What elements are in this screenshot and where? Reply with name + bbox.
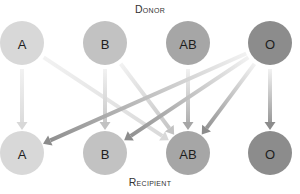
arrow-a-to-a xyxy=(17,69,28,130)
blood-type-compatibility-diagram: Donor Recipient ABABO ABABO xyxy=(0,0,300,194)
donor-node-o: O xyxy=(248,21,292,65)
donor-node-a: A xyxy=(0,21,44,65)
diagram-canvas: ABABO ABABO xyxy=(0,0,300,194)
recipient-node-b: B xyxy=(83,131,127,175)
blood-type-label: AB xyxy=(179,147,196,162)
arrow-head-icon xyxy=(265,122,276,130)
blood-type-label: AB xyxy=(179,37,196,52)
arrow-shaft xyxy=(207,64,255,128)
arrow-o-to-a xyxy=(43,54,246,146)
donor-node-b: B xyxy=(83,21,127,65)
blood-type-label: A xyxy=(18,37,27,52)
recipient-node-o: O xyxy=(248,131,292,175)
arrow-head-icon xyxy=(17,122,28,130)
arrow-o-to-ab xyxy=(202,64,255,135)
arrow-o-to-o xyxy=(265,69,276,130)
arrow-shaft xyxy=(121,64,170,128)
arrow-head-icon xyxy=(100,122,111,130)
blood-type-label: O xyxy=(265,37,275,52)
recipient-node-a: A xyxy=(0,131,44,175)
donor-node-ab: AB xyxy=(166,21,210,65)
recipient-node-ab: AB xyxy=(166,131,210,175)
blood-type-label: B xyxy=(101,37,110,52)
compatibility-arrows xyxy=(17,54,276,146)
blood-type-label: B xyxy=(101,147,110,162)
blood-type-label: O xyxy=(265,147,275,162)
arrow-head-icon xyxy=(183,122,194,130)
blood-type-label: A xyxy=(18,147,27,162)
recipient-nodes: ABABO xyxy=(0,131,292,175)
